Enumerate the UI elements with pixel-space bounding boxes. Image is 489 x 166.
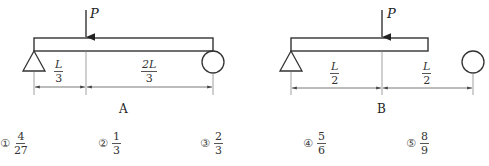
choice-marker: ① bbox=[0, 137, 10, 150]
choice-2[interactable]: ② 1 3 bbox=[98, 128, 121, 158]
choice-fraction: 1 3 bbox=[112, 131, 121, 156]
roller-support-a bbox=[202, 51, 224, 73]
choice-4[interactable]: ④ 5 6 bbox=[303, 128, 326, 158]
choice-marker: ③ bbox=[200, 137, 210, 150]
choice-marker: ② bbox=[98, 137, 108, 150]
fraction-numerator: L bbox=[54, 59, 63, 72]
load-label-b: P bbox=[387, 6, 396, 21]
load-label-a: P bbox=[90, 6, 99, 21]
fraction-denominator: 9 bbox=[421, 144, 428, 156]
segment-label-b-1: L 2 bbox=[330, 61, 339, 86]
fraction-denominator: 3 bbox=[55, 72, 62, 84]
caption-b: B bbox=[377, 102, 386, 116]
caption-a: A bbox=[119, 102, 128, 116]
choice-5[interactable]: ⑤ 8 9 bbox=[406, 128, 429, 158]
fraction-numerator: L bbox=[422, 61, 431, 74]
segment-label-b-2: L 2 bbox=[422, 61, 431, 86]
fraction-numerator: 2 bbox=[214, 131, 223, 144]
segment-label-a-2: 2L 3 bbox=[141, 59, 157, 84]
segment-label-a-1: L 3 bbox=[54, 59, 63, 84]
choice-fraction: 5 6 bbox=[317, 131, 326, 156]
choice-fraction: 2 3 bbox=[214, 131, 223, 156]
choice-3[interactable]: ③ 2 3 bbox=[200, 128, 223, 158]
fraction-numerator: 4 bbox=[16, 131, 25, 144]
choice-1[interactable]: ① 4 27 bbox=[0, 128, 28, 158]
fraction-denominator: 6 bbox=[318, 144, 325, 156]
fraction-denominator: 3 bbox=[113, 144, 120, 156]
choice-fraction: 8 9 bbox=[420, 131, 429, 156]
choice-marker: ④ bbox=[303, 137, 313, 150]
pin-support-b bbox=[280, 51, 302, 71]
fraction-numerator: 2L bbox=[141, 59, 157, 72]
fraction-denominator: 3 bbox=[146, 72, 153, 84]
fraction-numerator: L bbox=[330, 61, 339, 74]
fraction-numerator: 1 bbox=[112, 131, 121, 144]
roller-support-b bbox=[462, 51, 484, 73]
beam-a bbox=[34, 38, 213, 51]
pin-support-a bbox=[23, 51, 45, 71]
fraction-denominator: 2 bbox=[331, 74, 338, 86]
choice-marker: ⑤ bbox=[406, 137, 416, 150]
diagram-b bbox=[280, 10, 484, 95]
fraction-numerator: 8 bbox=[420, 131, 429, 144]
fraction-numerator: 5 bbox=[317, 131, 326, 144]
beam-b bbox=[291, 38, 428, 51]
fraction-denominator: 27 bbox=[14, 144, 28, 156]
fraction-denominator: 2 bbox=[423, 74, 430, 86]
fraction-denominator: 3 bbox=[215, 144, 222, 156]
choice-fraction: 4 27 bbox=[14, 131, 28, 156]
